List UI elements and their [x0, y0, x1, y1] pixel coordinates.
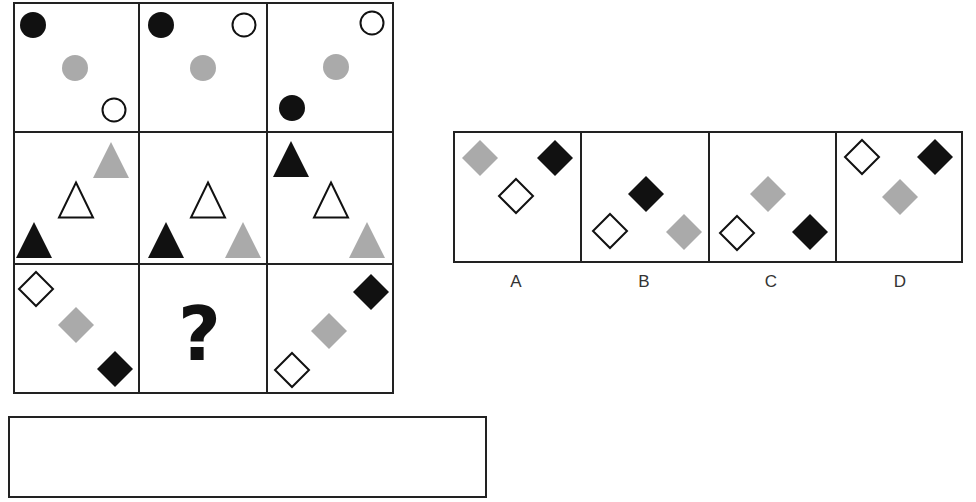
black-diamond-icon: [97, 351, 133, 387]
answer-options: [453, 131, 963, 263]
black-triangle-icon: [148, 222, 184, 258]
option-c-label[interactable]: C: [751, 272, 791, 292]
option-b-label[interactable]: B: [624, 272, 664, 292]
black-circle-icon: [148, 12, 174, 38]
gray-circle-icon: [190, 55, 216, 81]
white-triangle-icon: [59, 183, 93, 218]
gray-triangle-icon: [225, 222, 261, 258]
gray-circle-icon: [62, 55, 88, 81]
black-circle-icon: [20, 12, 46, 38]
white-triangle-icon: [191, 183, 225, 218]
gray-diamond-icon: [311, 313, 347, 349]
option-d-label[interactable]: D: [880, 272, 920, 292]
black-diamond-icon: [353, 274, 389, 310]
gray-triangle-icon: [93, 142, 129, 178]
gray-circle-icon: [323, 54, 349, 80]
white-diamond-icon: [275, 353, 309, 387]
white-diamond-icon: [19, 272, 53, 306]
missing-cell-question-mark: ?: [178, 297, 221, 371]
white-circle-icon: [103, 99, 126, 122]
black-triangle-icon: [273, 141, 309, 177]
black-triangle-icon: [16, 222, 52, 258]
white-triangle-icon: [314, 183, 348, 218]
white-circle-icon: [233, 14, 256, 37]
gray-diamond-icon: [58, 307, 94, 343]
gray-triangle-icon: [349, 222, 385, 258]
black-circle-icon: [279, 95, 305, 121]
option-a-label[interactable]: A: [496, 272, 536, 292]
white-circle-icon: [361, 12, 384, 35]
answer-box[interactable]: [8, 416, 487, 498]
